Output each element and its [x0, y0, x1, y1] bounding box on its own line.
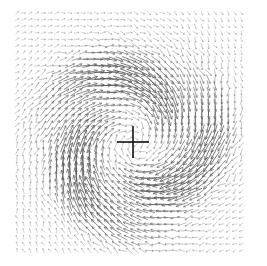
vector-arrow: [60, 58, 67, 61]
vector-arrow: [213, 63, 217, 69]
vector-arrow: [15, 103, 19, 108]
vector-arrow: [34, 148, 39, 154]
vector-arrow: [88, 248, 92, 253]
vector-arrow: [41, 58, 46, 61]
vector-arrow: [239, 143, 244, 148]
vector-arrow: [64, 82, 76, 90]
vector-arrow: [240, 189, 244, 193]
vector-arrow: [233, 83, 236, 89]
vector-arrow: [22, 109, 25, 115]
vector-arrow: [114, 149, 118, 155]
vector-arrow: [65, 95, 75, 103]
vector-arrow: [146, 150, 152, 153]
vector-arrow: [81, 242, 85, 247]
vector-arrow: [28, 64, 32, 67]
vector-arrow: [167, 18, 171, 21]
vector-arrow: [118, 188, 128, 195]
vector-arrow: [55, 215, 59, 220]
vector-arrow: [79, 229, 87, 233]
vector-arrow: [153, 31, 158, 35]
vector-arrow: [29, 70, 32, 74]
vector-arrow: [180, 37, 185, 41]
vector-arrow: [35, 175, 38, 181]
vector-arrow: [21, 97, 27, 100]
vector-arrow: [48, 202, 53, 208]
vector-arrow: [146, 156, 152, 161]
vector-arrow: [173, 55, 177, 63]
vector-arrow: [233, 189, 236, 194]
vector-arrow: [176, 158, 188, 171]
vector-arrow: [22, 90, 26, 95]
vector-arrow: [180, 56, 184, 63]
vector-arrow: [146, 114, 151, 124]
vector-arrow: [219, 196, 225, 199]
vector-arrow: [213, 50, 217, 54]
vector-arrow: [15, 116, 19, 121]
vector-arrow: [107, 248, 111, 254]
vector-arrow: [68, 235, 72, 239]
vector-arrow: [166, 31, 171, 34]
vector-arrow: [169, 160, 182, 169]
vector-arrow: [159, 149, 166, 153]
vector-arrow: [126, 38, 133, 41]
vector-arrow: [165, 45, 172, 48]
vector-arrow: [81, 248, 84, 253]
vector-arrow: [68, 242, 72, 246]
vector-arrow: [199, 243, 204, 246]
vector-arrow: [74, 235, 78, 240]
vector-arrow: [205, 216, 211, 219]
vector-arrow: [218, 190, 225, 193]
vector-arrow: [158, 155, 166, 161]
vector-arrow: [240, 203, 244, 207]
vector-arrow: [126, 137, 132, 140]
vector-arrow: [213, 209, 218, 214]
vector-arrow: [34, 122, 39, 129]
vector-arrow: [120, 37, 126, 41]
vector-arrow: [93, 38, 99, 41]
vector-arrow: [134, 31, 138, 35]
vector-arrow: [112, 130, 120, 134]
vector-arrow: [27, 103, 33, 108]
vector-arrow: [21, 78, 26, 81]
vector-arrow: [134, 24, 138, 28]
vector-arrow: [47, 75, 52, 82]
vector-arrow: [28, 109, 32, 116]
vector-arrow: [55, 222, 58, 227]
vector-arrow: [186, 50, 190, 56]
vector-arrow: [213, 44, 217, 47]
vector-arrow: [185, 215, 192, 220]
vector-arrow: [108, 161, 111, 169]
vector-arrow: [225, 183, 231, 186]
vector-arrow: [40, 83, 46, 89]
vector-arrow: [86, 227, 93, 235]
vector-arrow: [35, 77, 39, 82]
vector-arrow: [48, 51, 52, 55]
vector-arrow: [227, 51, 230, 55]
vector-arrow: [101, 240, 105, 247]
vector-arrow: [213, 229, 218, 232]
vector-arrow: [167, 24, 171, 28]
vector-arrow: [126, 110, 133, 115]
vector-arrow: [232, 156, 239, 161]
vector-arrow: [172, 51, 179, 55]
vector-arrow: [34, 129, 40, 135]
vector-arrow: [15, 123, 20, 127]
vector-arrow: [117, 182, 127, 188]
vector-arrow: [207, 50, 209, 56]
vector-arrow: [206, 236, 211, 239]
vector-arrow: [233, 64, 236, 68]
vector-arrow: [114, 248, 118, 254]
vector-arrow: [55, 208, 59, 215]
vector-arrow: [174, 43, 178, 49]
vector-arrow: [156, 168, 169, 175]
vector-arrow: [40, 108, 46, 116]
vector-arrow: [120, 31, 125, 35]
vector-arrow: [81, 234, 84, 241]
vector-arrow: [33, 90, 40, 94]
vector-arrow: [120, 156, 126, 161]
vector-arrow: [153, 43, 159, 48]
vector-arrow: [22, 84, 26, 88]
vector-arrow: [180, 18, 184, 21]
vector-arrow: [27, 97, 33, 101]
vector-arrow: [159, 44, 165, 48]
